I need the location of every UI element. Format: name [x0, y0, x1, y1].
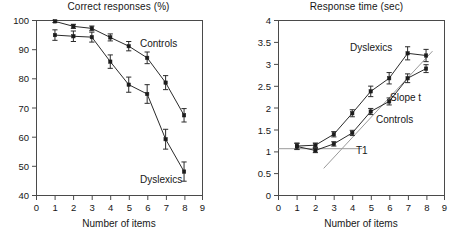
- data-point-marker: [127, 44, 130, 47]
- series-label-controls-right: Controls: [376, 114, 413, 125]
- data-point-marker: [406, 52, 409, 55]
- data-point-marker: [369, 90, 372, 93]
- data-point-marker: [369, 110, 372, 113]
- x-tick-label: 8: [424, 202, 429, 213]
- y-axis-tick-labels-left: 100 90 80 70 60 50 40: [13, 15, 29, 201]
- x-axis-ticks-right: [279, 196, 445, 201]
- data-point-marker: [53, 33, 56, 36]
- data-point-marker: [109, 36, 112, 39]
- data-point-marker: [164, 138, 167, 141]
- series-line-dyslexics: [55, 35, 184, 172]
- x-axis-tick-labels-right: 0 1 2 3 4 5 6 7 8 9: [276, 202, 447, 213]
- x-tick-label: 2: [313, 202, 318, 213]
- data-point-marker: [90, 27, 93, 30]
- y-tick-label: 80: [18, 73, 29, 84]
- y-tick-label: 40: [18, 190, 29, 201]
- data-point-marker: [72, 35, 75, 38]
- y-tick-label: 50: [18, 161, 29, 172]
- data-point-marker: [351, 131, 354, 134]
- data-point-marker: [332, 142, 335, 145]
- y-tick-label: 90: [18, 44, 29, 55]
- y-tick-label: 2: [266, 103, 271, 114]
- data-point-marker: [387, 77, 390, 80]
- x-tick-label: 9: [442, 202, 447, 213]
- chart-panel-response-time: Response time (sec) 4 3.5 3 2.5 2: [238, 0, 475, 231]
- series-line-controls: [297, 69, 426, 151]
- data-point-marker: [127, 83, 130, 86]
- data-point-marker: [53, 20, 56, 23]
- y-tick-label: 2.5: [258, 81, 271, 92]
- plot-right: 4 3.5 3 2.5 2 1.5 1 0.5 0: [238, 0, 475, 231]
- x-tick-label: 1: [294, 202, 299, 213]
- x-tick-label: 0: [34, 202, 39, 213]
- data-point-marker: [109, 60, 112, 63]
- data-point-marker: [424, 54, 427, 57]
- x-axis-ticks-left: [37, 196, 203, 201]
- y-tick-label: 60: [18, 132, 29, 143]
- chart-panel-correct-responses: Correct responses (%) 100 90 80 70 60 50: [0, 0, 237, 231]
- y-axis-ticks-right: [274, 21, 279, 196]
- y-tick-label: 3: [266, 59, 271, 70]
- data-point-marker: [182, 114, 185, 117]
- x-tick-label: 6: [145, 202, 150, 213]
- data-point-marker: [351, 112, 354, 115]
- x-tick-label: 1: [52, 202, 57, 213]
- x-tick-label: 4: [350, 202, 355, 213]
- data-point-marker: [332, 133, 335, 136]
- x-tick-label: 5: [369, 202, 374, 213]
- x-axis-title-left: Number of items: [82, 218, 155, 229]
- series-label-dyslexics-left: Dyslexics: [140, 174, 182, 185]
- data-point-marker: [314, 143, 317, 146]
- annotation-label-t1: T1: [356, 145, 368, 156]
- y-tick-label: 70: [18, 103, 29, 114]
- plot-left: 100 90 80 70 60 50 40: [0, 0, 237, 231]
- data-point-marker: [314, 149, 317, 152]
- y-tick-label: 1: [266, 146, 271, 157]
- y-tick-label: 1.5: [258, 125, 271, 136]
- data-point-marker: [295, 145, 298, 148]
- x-tick-label: 6: [387, 202, 392, 213]
- x-tick-label: 8: [182, 202, 187, 213]
- y-tick-label: 0.5: [258, 168, 271, 179]
- data-point-marker: [145, 56, 148, 59]
- slope-t-regression-line: [324, 51, 433, 168]
- x-tick-label: 3: [90, 202, 95, 213]
- annotation-label-slope-t: Slope t: [390, 92, 421, 103]
- x-tick-label: 7: [406, 202, 411, 213]
- x-tick-label: 3: [332, 202, 337, 213]
- x-tick-label: 9: [200, 202, 205, 213]
- data-point-marker: [164, 81, 167, 84]
- series-label-dyslexics-right: Dyslexics: [350, 42, 392, 53]
- y-axis-ticks-left: [32, 21, 37, 196]
- x-tick-label: 7: [164, 202, 169, 213]
- data-point-marker: [72, 25, 75, 28]
- data-point-marker: [90, 35, 93, 38]
- x-tick-label: 4: [108, 202, 113, 213]
- data-point-marker: [145, 92, 148, 95]
- x-tick-label: 0: [276, 202, 281, 213]
- x-tick-label: 2: [71, 202, 76, 213]
- y-tick-label: 4: [266, 15, 271, 26]
- y-tick-label: 100: [13, 15, 29, 26]
- data-point-marker: [182, 170, 185, 173]
- data-point-marker: [406, 77, 409, 80]
- plot-frame-left: [37, 21, 203, 196]
- x-axis-tick-labels-left: 0 1 2 3 4 5 6 7 8 9: [34, 202, 205, 213]
- y-tick-label: 0: [266, 190, 271, 201]
- series-label-controls-left: Controls: [140, 38, 177, 49]
- y-axis-tick-labels-right: 4 3.5 3 2.5 2 1.5 1 0.5 0: [258, 15, 271, 201]
- x-tick-label: 5: [127, 202, 132, 213]
- y-tick-label: 3.5: [258, 37, 271, 48]
- figure-root: Correct responses (%) 100 90 80 70 60 50: [0, 0, 475, 231]
- data-point-marker: [424, 67, 427, 70]
- x-axis-title-right: Number of items: [324, 218, 397, 229]
